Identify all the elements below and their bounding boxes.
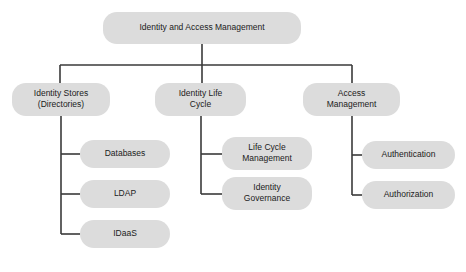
node-label-line: Life Cycle xyxy=(248,142,286,152)
node-label-line: Identity and Access Management xyxy=(139,22,265,32)
node-label-line: Management xyxy=(242,154,292,164)
node-label-line: Authentication xyxy=(382,149,436,159)
node-ldap[interactable]: LDAP xyxy=(80,180,170,208)
iam-hierarchy-diagram: Identity and Access ManagementIdentity S… xyxy=(0,0,466,272)
node-life-cycle-management[interactable]: Life CycleManagement xyxy=(222,137,312,170)
node-label-line: LDAP xyxy=(114,188,137,198)
node-label-authentication: Authentication xyxy=(382,149,436,159)
diagram-canvas: Identity and Access ManagementIdentity S… xyxy=(0,0,466,272)
node-root[interactable]: Identity and Access Management xyxy=(103,12,301,44)
node-authentication[interactable]: Authentication xyxy=(362,141,455,169)
node-label-line: Identity xyxy=(253,182,281,192)
node-label-identity-stores: Identity Stores(Directories) xyxy=(34,88,88,110)
node-label-authorization: Authorization xyxy=(384,189,434,199)
node-label-databases: Databases xyxy=(105,148,146,158)
node-access-management[interactable]: AccessManagement xyxy=(303,83,400,116)
node-label-line: (Directories) xyxy=(38,100,84,110)
node-label-line: Authorization xyxy=(384,189,434,199)
node-label-line: Databases xyxy=(105,148,146,158)
node-label-line: Access xyxy=(338,88,365,98)
node-label-line: Governance xyxy=(244,194,291,204)
node-label-root: Identity and Access Management xyxy=(139,22,265,32)
node-label-ldap: LDAP xyxy=(114,188,137,198)
node-identity-life-cycle[interactable]: Identity LifeCycle xyxy=(155,83,246,116)
node-label-line: IDaaS xyxy=(113,228,137,238)
node-identity-governance[interactable]: IdentityGovernance xyxy=(222,177,312,210)
node-idaas[interactable]: IDaaS xyxy=(80,220,170,248)
node-layer: Identity and Access ManagementIdentity S… xyxy=(12,12,455,248)
node-label-line: Identity Life xyxy=(179,88,223,98)
node-label-line: Management xyxy=(327,100,377,110)
node-databases[interactable]: Databases xyxy=(80,140,170,168)
node-label-life-cycle-management: Life CycleManagement xyxy=(242,142,292,164)
node-label-idaas: IDaaS xyxy=(113,228,137,238)
node-label-line: Identity Stores xyxy=(34,88,88,98)
node-identity-stores[interactable]: Identity Stores(Directories) xyxy=(12,83,110,116)
node-label-line: Cycle xyxy=(190,100,212,110)
node-authorization[interactable]: Authorization xyxy=(362,181,455,209)
